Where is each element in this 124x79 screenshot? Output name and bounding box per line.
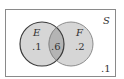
set-f-only-value: .2: [75, 41, 85, 52]
set-e-only-value: .1: [32, 41, 42, 52]
outside-value: .1: [101, 63, 111, 74]
universe-label: S: [103, 15, 110, 26]
intersection-value: .6: [51, 41, 61, 52]
set-e-label: E: [32, 27, 41, 38]
set-f-label: F: [75, 27, 84, 38]
venn-diagram: S E F .1 .6 .2 .1: [0, 0, 124, 79]
